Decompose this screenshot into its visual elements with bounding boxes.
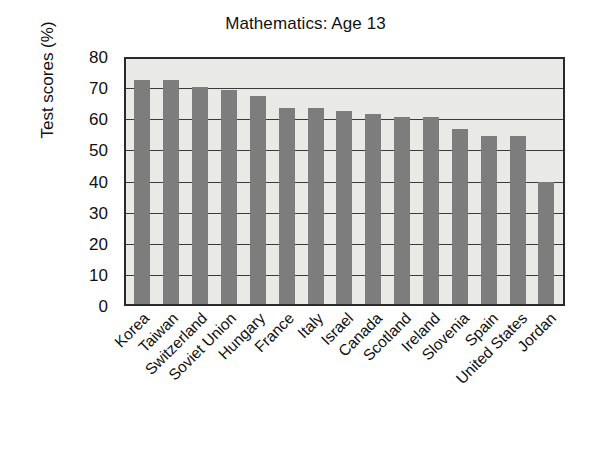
bar-slot	[215, 59, 244, 304]
bar[interactable]	[279, 108, 295, 304]
bar[interactable]	[192, 87, 208, 304]
bar[interactable]	[510, 136, 526, 304]
y-tick-label: 0	[99, 298, 108, 315]
bar-slot	[474, 59, 503, 304]
y-tick-label: 20	[89, 235, 108, 252]
bar[interactable]	[394, 117, 410, 304]
bar-slot	[388, 59, 417, 304]
y-axis-tick-labels: 80706050403020100	[72, 57, 114, 306]
y-tick-label: 80	[89, 49, 108, 66]
chart-title: Mathematics: Age 13	[0, 14, 611, 34]
y-tick-label: 50	[89, 142, 108, 159]
plot-area	[124, 57, 565, 306]
bar[interactable]	[308, 108, 324, 304]
bar-series	[126, 59, 563, 304]
y-tick-label: 10	[89, 266, 108, 283]
y-tick-label: 30	[89, 204, 108, 221]
bar[interactable]	[221, 90, 237, 304]
y-tick-label: 40	[89, 173, 108, 190]
bar-slot	[503, 59, 532, 304]
chart-figure: Mathematics: Age 13 Test scores (%) 8070…	[0, 0, 611, 457]
bar-slot	[128, 59, 157, 304]
x-axis-tick-labels: KoreaTaiwanSwitzerlandSoviet UnionHungar…	[124, 306, 565, 456]
bar-slot	[157, 59, 186, 304]
bar-slot	[359, 59, 388, 304]
bar-slot	[272, 59, 301, 304]
bar-slot	[330, 59, 359, 304]
bar[interactable]	[163, 80, 179, 304]
bar-slot	[417, 59, 446, 304]
bar-slot	[243, 59, 272, 304]
bar[interactable]	[336, 111, 352, 304]
y-tick-label: 70	[89, 80, 108, 97]
bar[interactable]	[423, 117, 439, 304]
bar[interactable]	[538, 182, 554, 305]
bar[interactable]	[481, 136, 497, 304]
bar-slot	[532, 59, 561, 304]
bar[interactable]	[452, 129, 468, 304]
bar[interactable]	[134, 80, 150, 304]
y-tick-label: 60	[89, 111, 108, 128]
bar[interactable]	[250, 96, 266, 304]
y-axis-title: Test scores (%)	[38, 0, 58, 190]
bar-slot	[186, 59, 215, 304]
bar-slot	[445, 59, 474, 304]
bar[interactable]	[365, 114, 381, 304]
bar-slot	[301, 59, 330, 304]
